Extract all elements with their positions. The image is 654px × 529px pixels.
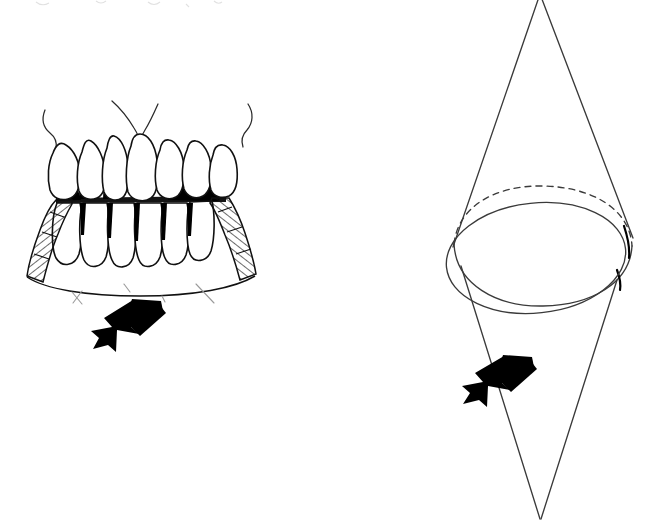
figure-canvas: Dental occlusion and double-cone geometr… — [0, 0, 654, 529]
figure-svg — [0, 0, 654, 529]
upper-tooth-5 — [155, 140, 184, 199]
upper-tooth-7 — [209, 145, 237, 197]
upper-tooth-4 — [126, 134, 158, 201]
